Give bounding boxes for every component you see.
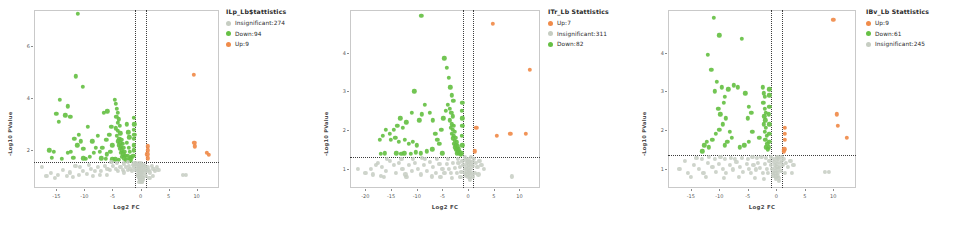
- legend: ITr_Lb StattisticsUp:7Insignificant:311D…: [548, 8, 609, 52]
- x-tick-label: 0: [775, 193, 778, 199]
- x-tick-label: -10: [80, 193, 88, 199]
- plot-panel-2: -20-15-10-505101234Log2 FC-Log10 PValueI…: [310, 0, 640, 229]
- legend-item-label: Down:82: [557, 41, 583, 47]
- legend: ILp_Lb$tattisticsInsignificant:274Down:9…: [226, 8, 286, 52]
- x-tick-mark: [112, 189, 113, 191]
- legend-title: ITr_Lb Stattistics: [548, 8, 609, 15]
- x-tick-mark: [494, 189, 495, 191]
- y-tick-mark: [31, 150, 33, 151]
- plot-panel-1: -15-10-50510246Log2 FC-Log10 PValueILp_L…: [0, 0, 320, 229]
- y-tick-mark: [31, 98, 33, 99]
- x-tick-mark: [691, 189, 692, 191]
- x-tick-label: -5: [110, 193, 115, 199]
- y-tick-label: 4: [652, 50, 664, 56]
- x-tick-mark: [197, 189, 198, 191]
- legend-item-label: Insignificant:311: [557, 31, 607, 37]
- y-tick-label: 2: [652, 127, 664, 133]
- x-axis-label: Log2 FC: [350, 204, 540, 210]
- legend-item[interactable]: Insignificant:245: [866, 41, 929, 47]
- x-tick-label: -15: [52, 193, 60, 199]
- y-tick-label: 2: [334, 127, 346, 133]
- x-axis-label: Log2 FC: [668, 204, 856, 210]
- legend-item[interactable]: Down:82: [548, 41, 609, 47]
- volcano-plot-figure: -15-10-50510246Log2 FC-Log10 PValueILp_L…: [0, 0, 959, 229]
- x-tick-label: 0: [139, 193, 142, 199]
- x-tick-label: -5: [440, 193, 445, 199]
- x-tick-label: 5: [803, 193, 806, 199]
- y-tick-mark: [665, 130, 667, 131]
- legend-item-label: Down:94: [235, 31, 261, 37]
- x-tick-mark: [141, 189, 142, 191]
- x-tick-label: 10: [830, 193, 836, 199]
- legend-item[interactable]: Insignificant:274: [226, 20, 286, 26]
- x-tick-mark: [776, 189, 777, 191]
- x-tick-mark: [169, 189, 170, 191]
- legend-item-label: Up:9: [875, 20, 889, 26]
- y-tick-mark: [347, 91, 349, 92]
- legend-swatch-down-icon: [548, 42, 553, 47]
- legend-item[interactable]: Up:7: [548, 20, 609, 26]
- plot-panel-3: -15-10-505101234Log2 FC-Log10 PValueIBv_…: [630, 0, 959, 229]
- x-tick-mark: [417, 189, 418, 191]
- x-axis-label: Log2 FC: [34, 204, 219, 210]
- x-tick-mark: [56, 189, 57, 191]
- x-tick-mark: [468, 189, 469, 191]
- x-tick-mark: [391, 189, 392, 191]
- legend-item[interactable]: Down:61: [866, 31, 929, 37]
- legend-title: IBv_Lb Stattistics: [866, 8, 929, 15]
- y-tick-mark: [665, 169, 667, 170]
- y-tick-mark: [665, 91, 667, 92]
- legend-item-label: Up:9: [235, 41, 249, 47]
- y-tick-label: 3: [334, 88, 346, 94]
- y-axis-label: -Log10 PValue: [641, 38, 647, 156]
- x-tick-label: 0: [467, 193, 470, 199]
- legend-item-label: Insignificant:274: [235, 20, 285, 26]
- legend-item-label: Insignificant:245: [875, 41, 925, 47]
- x-tick-mark: [719, 189, 720, 191]
- legend-item[interactable]: Insignificant:311: [548, 31, 609, 37]
- x-tick-mark: [805, 189, 806, 191]
- x-tick-label: 5: [492, 193, 495, 199]
- legend-item[interactable]: Up:9: [866, 20, 929, 26]
- x-tick-label: -10: [715, 193, 723, 199]
- legend-swatch-insignificant-icon: [548, 31, 553, 36]
- y-tick-mark: [347, 53, 349, 54]
- legend-title: ILp_Lb$tattistics: [226, 8, 286, 15]
- legend-swatch-up-icon: [226, 42, 231, 47]
- x-tick-label: 5: [167, 193, 170, 199]
- x-tick-mark: [748, 189, 749, 191]
- y-tick-label: 1: [334, 166, 346, 172]
- legend-item-label: Up:7: [557, 20, 571, 26]
- x-tick-label: 10: [193, 193, 199, 199]
- plot-area: [668, 10, 856, 188]
- legend-swatch-up-icon: [548, 21, 553, 26]
- y-axis-label: -Log10 PValue: [7, 38, 13, 156]
- x-tick-mark: [833, 189, 834, 191]
- legend-item[interactable]: Down:94: [226, 31, 286, 37]
- legend-swatch-down-icon: [866, 31, 871, 36]
- x-tick-mark: [365, 189, 366, 191]
- x-tick-label: -10: [413, 193, 421, 199]
- x-tick-mark: [84, 189, 85, 191]
- x-tick-label: 10: [516, 193, 522, 199]
- x-tick-mark: [442, 189, 443, 191]
- legend-swatch-insignificant-icon: [866, 42, 871, 47]
- y-tick-label: 6: [18, 43, 30, 49]
- y-tick-label: 1: [652, 166, 664, 172]
- y-tick-label: 3: [652, 88, 664, 94]
- legend-item[interactable]: Up:9: [226, 41, 286, 47]
- legend-swatch-up-icon: [866, 21, 871, 26]
- legend-swatch-down-icon: [226, 31, 231, 36]
- y-tick-label: 2: [18, 147, 30, 153]
- legend: IBv_Lb StattisticsUp:9Down:61Insignifica…: [866, 8, 929, 52]
- legend-item-label: Down:61: [875, 31, 901, 37]
- x-tick-label: -5: [745, 193, 750, 199]
- y-tick-mark: [347, 130, 349, 131]
- y-tick-mark: [31, 46, 33, 47]
- x-tick-label: -20: [361, 193, 369, 199]
- x-tick-label: -15: [387, 193, 395, 199]
- legend-swatch-insignificant-icon: [226, 21, 231, 26]
- y-tick-label: 4: [18, 95, 30, 101]
- y-tick-mark: [347, 169, 349, 170]
- y-axis-label: -Log10 PValue: [323, 38, 329, 156]
